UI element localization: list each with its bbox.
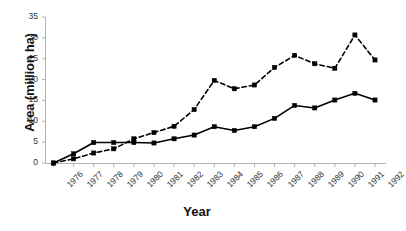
data-point-marker [353,91,357,95]
data-point-marker [132,137,136,141]
data-point-marker [172,124,176,128]
data-point-marker [212,125,216,129]
y-tick-label: 10 [12,116,38,125]
data-point-marker [51,161,55,165]
data-point-marker [71,157,75,161]
data-point-marker [232,128,236,132]
data-point-marker [212,78,216,82]
data-point-marker [192,133,196,137]
data-point-marker [252,125,256,129]
data-point-marker [333,66,337,70]
data-point-marker [353,33,357,37]
data-point-marker [192,108,196,112]
data-point-marker [152,130,156,134]
y-tick-label: 20 [12,75,38,84]
data-point-marker [232,87,236,91]
y-tick-label: 35 [12,12,38,21]
y-tick-label: 5 [12,137,38,146]
y-tick-label: 0 [12,158,38,167]
data-point-marker [92,151,96,155]
data-point-marker [293,103,297,107]
data-point-marker [71,152,75,156]
data-point-marker [293,53,297,57]
data-point-marker [272,65,276,69]
data-point-marker [152,141,156,145]
data-point-marker [313,62,317,66]
data-point-marker [92,140,96,144]
data-point-marker [373,58,377,62]
y-tick-label: 15 [12,95,38,104]
data-point-marker [333,98,337,102]
data-point-marker [313,106,317,110]
y-tick-label: 25 [12,54,38,63]
data-point-marker [252,83,256,87]
series-line-dashed-series [54,35,376,163]
data-point-marker [112,140,116,144]
data-point-marker [112,147,116,151]
data-point-marker [172,137,176,141]
y-tick-label: 30 [12,33,38,42]
series-lines [51,33,377,165]
data-point-marker [272,116,276,120]
data-point-marker [373,98,377,102]
